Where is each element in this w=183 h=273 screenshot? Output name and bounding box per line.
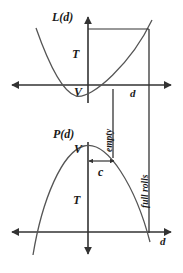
region-label-empty: empty bbox=[105, 129, 115, 152]
c-label: c bbox=[98, 166, 103, 178]
diagram-svg bbox=[0, 0, 183, 273]
upper-panel bbox=[12, 17, 171, 103]
region-label-full-rolls: full rolls bbox=[141, 174, 151, 208]
upper-V-label: V bbox=[74, 86, 82, 98]
upper-y-axis-label: L(d) bbox=[52, 11, 73, 23]
figure-canvas: L(d) T V d empty full rolls P(d) V c T d bbox=[0, 0, 183, 273]
lower-V-label: V bbox=[74, 143, 82, 155]
lower-curve-profit bbox=[33, 145, 150, 255]
lower-x-axis-label: d bbox=[160, 236, 166, 247]
lower-T-label: T bbox=[73, 194, 80, 206]
lower-y-axis-label: P(d) bbox=[53, 128, 74, 140]
upper-T-label: T bbox=[72, 48, 79, 60]
upper-x-axis-label: d bbox=[130, 88, 136, 99]
